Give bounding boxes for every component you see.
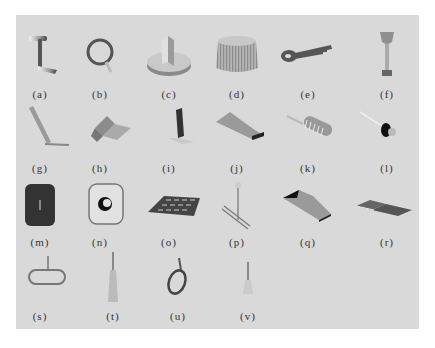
figure-label: (d) <box>202 88 272 100</box>
figure-label: (l) <box>352 162 422 174</box>
figure-item-l: (l) <box>352 102 422 176</box>
short-tapered-post-icon <box>213 250 283 308</box>
figure-label: (e) <box>273 88 343 100</box>
figure-item-n: (n) <box>65 176 135 250</box>
figure-item-e: (e) <box>273 28 343 102</box>
rod-with-ball-and-rails-icon <box>202 176 272 234</box>
figure-label: (b) <box>65 88 135 100</box>
figure-item-i: (i) <box>134 102 204 176</box>
figure-label: (k) <box>273 162 343 174</box>
figure-label: (c) <box>134 88 204 100</box>
figure-label: (p) <box>202 236 272 248</box>
flat-folded-plate-icon <box>352 176 422 234</box>
rounded-square-with-hole-icon <box>65 176 135 234</box>
stick-shift-knob-icon <box>352 28 422 86</box>
ring-pull-handle-icon <box>65 28 135 86</box>
tapered-slot-plate-icon <box>202 102 272 160</box>
figure-item-c: (c) <box>134 28 204 102</box>
oval-ring-handle-icon <box>143 250 213 308</box>
curved-ramp-plate-icon <box>273 176 343 234</box>
figure-label: (f) <box>352 88 422 100</box>
figure-item-h: (h) <box>65 102 135 176</box>
keypad-icon <box>134 176 204 234</box>
figure-label: (r) <box>352 236 422 248</box>
figure-label: (h) <box>65 162 135 174</box>
key-icon <box>273 28 343 86</box>
tall-tapered-post-icon <box>78 250 148 308</box>
figure-item-r: (r) <box>352 176 422 250</box>
figure-label: (u) <box>143 310 213 322</box>
figure-label: (v) <box>213 310 283 322</box>
figure-label: (t) <box>78 310 148 322</box>
figure-label: (s) <box>5 310 75 322</box>
round-knob-with-fin-icon <box>134 28 204 86</box>
l-bracket-plate-icon <box>134 102 204 160</box>
figure-item-q: (q) <box>273 176 343 250</box>
figure-label: (o) <box>134 236 204 248</box>
figure-item-u: (u) <box>143 250 213 324</box>
figure-item-p: (p) <box>202 176 272 250</box>
ridged-cylinder-knob-icon <box>202 28 272 86</box>
figure-item-t: (t) <box>78 250 148 324</box>
figure-label: (n) <box>65 236 135 248</box>
figure-item-d: (d) <box>202 28 272 102</box>
figure-item-k: (k) <box>273 102 343 176</box>
figure-label: (q) <box>273 236 343 248</box>
figure-item-j: (j) <box>202 102 272 176</box>
figure-item-o: (o) <box>134 176 204 250</box>
figure-label: (i) <box>134 162 204 174</box>
ribbed-paddle-icon <box>273 102 343 160</box>
figure-label: (j) <box>202 162 272 174</box>
figure-item-v: (v) <box>213 250 283 324</box>
oval-loop-handle-icon <box>5 250 75 308</box>
bent-plate-icon <box>65 102 135 160</box>
figure-item-b: (b) <box>65 28 135 102</box>
figure-item-f: (f) <box>352 28 422 102</box>
push-pin-icon <box>352 102 422 160</box>
figure-item-s: (s) <box>5 250 75 324</box>
